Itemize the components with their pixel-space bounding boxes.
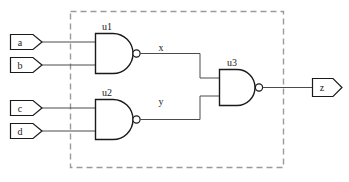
output-port-z-label: z [320,82,325,93]
wire-net-x [140,54,219,79]
schematic-canvas: a b c d u1 u2 [0,0,349,182]
input-port-d-shape [11,124,43,139]
input-port-d[interactable]: d [11,124,43,139]
input-port-d-label: d [18,126,23,137]
input-port-a-shape [11,35,43,50]
input-port-a-label: a [18,37,23,48]
gate-u3-inversion-bubble [255,84,262,91]
gate-u2-inversion-bubble [133,116,140,123]
input-port-c[interactable]: c [11,101,43,116]
input-port-a[interactable]: a [11,35,43,50]
gate-u1-label: u1 [102,21,112,32]
gate-u2[interactable]: u2 [96,87,141,140]
input-port-c-label: c [18,103,23,114]
net-x-label: x [159,42,164,53]
gate-u2-body [96,100,134,140]
output-port-z-shape [313,79,343,97]
gate-u1[interactable]: u1 [96,21,141,74]
input-port-b[interactable]: b [11,58,43,73]
gate-u1-inversion-bubble [133,50,140,57]
gate-u1-body [96,34,133,74]
input-port-c-shape [11,101,43,116]
net-y-label: y [159,96,164,107]
output-port-z[interactable]: z [313,79,343,97]
circuit-schematic: a b c d u1 u2 [0,0,349,182]
gate-u3-label: u3 [227,57,237,68]
wire-net-y [140,96,219,120]
gate-u3[interactable]: u3 [220,57,263,106]
gate-u3-body [220,70,256,106]
input-port-b-shape [11,58,43,73]
input-port-b-label: b [18,60,23,71]
gate-u2-label: u2 [102,87,112,98]
